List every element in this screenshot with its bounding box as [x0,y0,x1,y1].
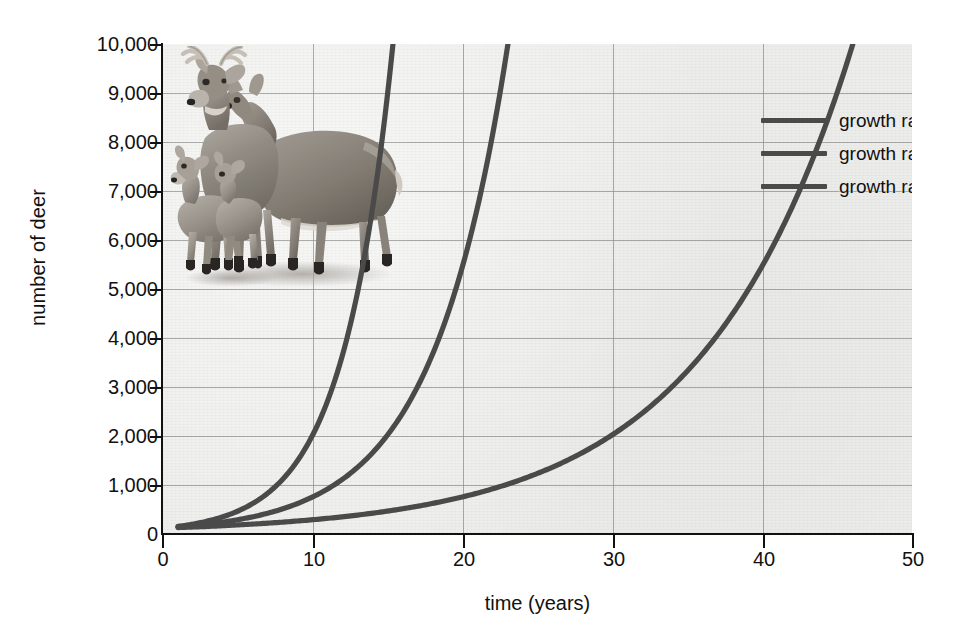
y-tick-label: 5,000 [66,279,158,299]
y-tick-label: 9,000 [66,83,158,103]
x-axis-line [161,533,914,535]
legend-swatch-icon [761,184,827,189]
curve-r-0-1 [178,44,853,528]
legend-item-r-0-1[interactable]: growth rate (r) = 0.1 [761,170,912,203]
legend: growth rate (r) = 0.3 growth rate (r) = … [761,104,912,203]
legend-label: growth rate (r) = 0.2 [839,143,912,165]
x-tick-label: 50 [883,548,943,571]
y-axis-line [161,43,163,535]
legend-label: growth rate (r) = 0.3 [839,110,912,132]
x-tick-label: 20 [434,548,494,571]
x-tick-label: 40 [734,548,794,571]
legend-item-r-0-2[interactable]: growth rate (r) = 0.2 [761,137,912,170]
x-tick-label: 0 [133,548,193,571]
x-tick-mark [463,535,465,548]
y-tick-label: 8,000 [66,132,158,152]
curve-r-0-2 [178,44,508,527]
legend-swatch-icon [761,151,827,156]
legend-swatch-icon [761,118,827,123]
y-tick-label: 10,000 [66,34,158,54]
y-tick-label: 6,000 [66,230,158,250]
legend-item-r-0-3[interactable]: growth rate (r) = 0.3 [761,104,912,137]
x-tick-mark [912,535,914,548]
y-tick-label: 0 [66,524,158,544]
curve-r-0-3 [178,44,393,526]
legend-label: growth rate (r) = 0.1 [839,176,912,198]
y-axis-title: number of deer [27,158,50,358]
plot-area: growth rate (r) = 0.3 growth rate (r) = … [163,44,912,533]
y-tick-label-group: 10,000 9,000 8,000 7,000 6,000 5,000 4,0… [48,0,158,637]
exponential-growth-figure: number of deer 10,000 9,000 8,000 7,000 … [0,0,954,637]
x-tick-mark [313,535,315,548]
x-tick-mark [613,535,615,548]
y-tick-label: 3,000 [66,377,158,397]
y-tick-label: 7,000 [66,181,158,201]
y-tick-label: 2,000 [66,426,158,446]
y-tick-label: 1,000 [66,475,158,495]
x-tick-mark [763,535,765,548]
x-tick-mark [162,535,164,548]
x-tick-label: 30 [584,548,644,571]
y-tick-label: 4,000 [66,328,158,348]
x-tick-label: 10 [284,548,344,571]
x-axis-title: time (years) [163,592,912,615]
